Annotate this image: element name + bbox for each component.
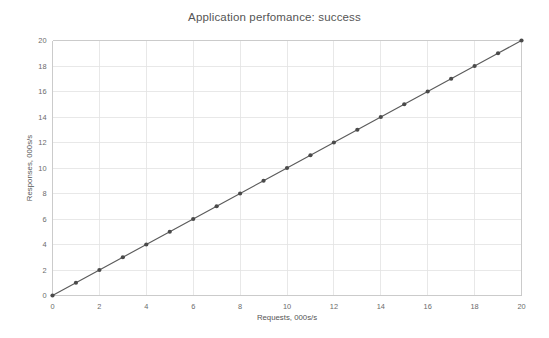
x-tick-label: 8 — [238, 302, 242, 311]
axis-titles: Requests, 000s/sResponses, 000s/s — [25, 135, 317, 322]
data-point-marker — [402, 102, 406, 106]
y-tick-label: 2 — [42, 266, 46, 275]
x-tick-label: 16 — [424, 302, 432, 311]
data-point-marker — [121, 255, 125, 259]
data-point-marker — [332, 140, 336, 144]
x-tick-label: 4 — [144, 302, 148, 311]
y-tick-label: 8 — [42, 189, 46, 198]
data-point-marker — [168, 230, 172, 234]
chart-container: Application perfomance: success 02468101… — [0, 0, 549, 338]
y-tick-label: 0 — [42, 291, 46, 300]
data-point-marker — [191, 217, 195, 221]
data-point-marker — [50, 293, 54, 297]
x-tick-label: 6 — [191, 302, 195, 311]
y-tick-label: 20 — [38, 36, 46, 45]
x-axis-title: Requests, 000s/s — [257, 313, 317, 322]
data-point-marker — [308, 153, 312, 157]
x-tick-label: 2 — [97, 302, 101, 311]
y-tick-label: 12 — [38, 138, 46, 147]
x-tick-label: 20 — [517, 302, 525, 311]
y-tick-label: 6 — [42, 215, 46, 224]
data-point-marker — [144, 242, 148, 246]
data-point-marker — [238, 191, 242, 195]
x-tick-label: 18 — [470, 302, 478, 311]
data-point-marker — [74, 281, 78, 285]
y-tick-label: 16 — [38, 87, 46, 96]
y-tick-label: 14 — [38, 113, 46, 122]
x-tick-label: 12 — [330, 302, 338, 311]
data-point-marker — [519, 38, 523, 42]
y-tick-label: 18 — [38, 62, 46, 71]
y-tick-label: 10 — [38, 164, 46, 173]
chart-plot-svg: 02468101214161820 02468101214161820 Requ… — [0, 0, 549, 338]
x-axis-tick-labels: 02468101214161820 — [50, 302, 525, 311]
data-point-marker — [473, 64, 477, 68]
data-point-marker — [449, 77, 453, 81]
data-point-marker — [285, 166, 289, 170]
data-point-marker — [97, 268, 101, 272]
data-point-marker — [355, 128, 359, 132]
data-point-marker — [379, 115, 383, 119]
y-axis-title: Responses, 000s/s — [25, 135, 34, 201]
x-tick-label: 0 — [50, 302, 54, 311]
y-tick-label: 4 — [42, 240, 46, 249]
x-tick-label: 10 — [283, 302, 291, 311]
data-point-marker — [261, 179, 265, 183]
data-point-marker — [496, 51, 500, 55]
data-point-marker — [426, 89, 430, 93]
x-tick-label: 14 — [377, 302, 385, 311]
y-axis-tick-labels: 02468101214161820 — [38, 36, 46, 300]
data-point-marker — [215, 204, 219, 208]
